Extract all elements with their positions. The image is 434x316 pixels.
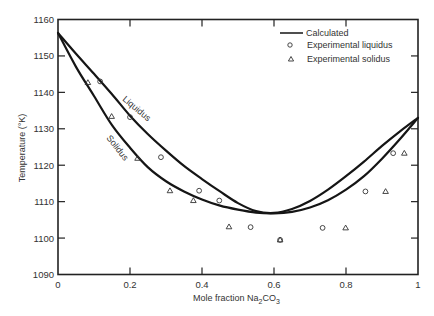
legend-triangle-icon <box>288 57 293 62</box>
x-axis-title-mid: CO <box>262 293 276 303</box>
y-tick-label: 1140 <box>34 87 54 98</box>
x-tick-label: 0 <box>55 279 60 290</box>
y-tick-label: 1160 <box>34 14 54 25</box>
solidus-point <box>109 114 115 119</box>
solidus-curve-label: Solidus <box>104 133 130 163</box>
liquidus-point <box>363 189 368 194</box>
legend-solidus-label: Experimental solidus <box>307 54 391 64</box>
x-tick-label: 0.4 <box>195 279 208 290</box>
y-tick-label: 1090 <box>33 269 54 280</box>
x-tick-label: 0.6 <box>267 279 280 290</box>
liquidus-point <box>217 198 222 203</box>
x-axis-title-main: Mole fraction Na <box>193 293 259 303</box>
phase-diagram-chart: 00.20.40.60.8110901100111011201130114011… <box>0 0 434 316</box>
solidus-point <box>343 225 349 230</box>
solidus-point <box>383 189 389 194</box>
liquidus-point <box>159 155 164 160</box>
y-tick-label: 1100 <box>34 233 54 244</box>
x-tick-label: 1 <box>415 279 420 290</box>
solidus-point <box>167 188 173 193</box>
x-axis-title-sub2: 3 <box>276 298 280 305</box>
solidus-point <box>402 150 408 155</box>
legend-liquidus-label: Experimental liquidus <box>307 40 393 50</box>
x-tick-label: 0.2 <box>123 279 136 290</box>
liquidus-point <box>320 225 325 230</box>
y-tick-label: 1150 <box>34 50 54 61</box>
y-tick-label: 1120 <box>34 160 54 171</box>
liquidus-point <box>248 225 253 230</box>
chart-legend: Calculated Experimental liquidus Experim… <box>280 28 393 64</box>
legend-calculated-label: Calculated <box>306 28 349 38</box>
liquidus-curve-label: Liquidus <box>121 94 153 124</box>
y-tick-label: 1130 <box>34 123 54 134</box>
x-tick-label: 0.8 <box>339 279 352 290</box>
liquidus-point <box>391 151 396 156</box>
y-axis-title: Temperature (°K) <box>17 114 27 183</box>
solidus-point <box>191 198 197 203</box>
y-tick-label: 1110 <box>34 196 54 207</box>
liquidus-point <box>197 188 202 193</box>
legend-circle-icon <box>288 43 292 47</box>
x-axis-title: Mole fraction Na2CO3 <box>193 293 280 305</box>
solidus-point <box>226 224 232 229</box>
